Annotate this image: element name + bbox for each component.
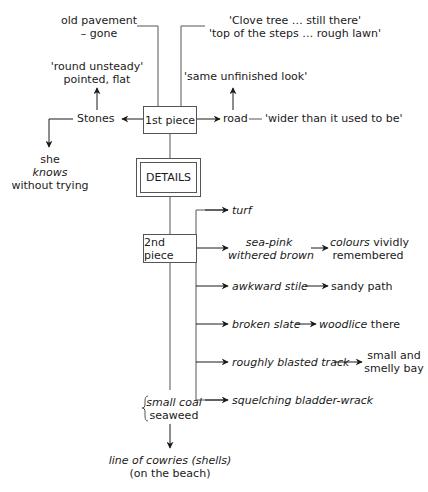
node-details: DETAILS [136,158,201,197]
old-pavement-text: old pavement [60,14,138,27]
label-clove-tree: 'Clove tree … still there' 'top of the s… [205,14,385,40]
cowries-text: line of cowries (shells) [90,454,250,467]
small-and-text: small and [363,349,425,362]
clove-tree-text: 'Clove tree … still there' [205,14,385,27]
node-second-piece: 2nd piece [143,234,197,263]
second-piece-text: 2nd piece [144,236,196,262]
vividly-text: vividly [370,236,409,249]
label-small-bay: small and smelly bay [363,349,425,375]
label-round-unsteady: 'round unsteady' pointed, flat [45,60,149,86]
knows-text: knows [10,166,90,179]
node-first-piece: 1st piece [143,106,197,134]
label-old-pavement: old pavement – gone [60,14,138,40]
label-broken-slate: broken slate [232,318,300,331]
label-sandy-path: sandy path [331,280,392,293]
label-she-knows: she knows without trying [10,153,90,192]
first-piece-text: 1st piece [145,114,195,127]
seaweed-text: seaweed [146,409,202,422]
withered-brown-text: withered brown [228,249,310,262]
label-awkward-stile: awkward stile [232,280,308,293]
smelly-bay-text: smelly bay [363,362,425,375]
on-the-beach-text: (on the beach) [90,467,250,480]
arrow-stones-she-knows [49,119,73,147]
top-of-steps-text: 'top of the steps … rough lawn' [205,27,385,40]
label-small-coal-seaweed: small coal seaweed [146,396,202,422]
sea-pink-text: sea-pink [228,236,310,249]
there-text: there [367,318,400,331]
label-stones: Stones [77,112,115,125]
branch-trunk [196,210,228,400]
she-text: she [10,153,90,166]
label-turf: turf [232,204,252,217]
label-colours-vividly: colours vividly remembered [330,236,406,262]
line-clove-tree [181,26,205,106]
label-sea-pink: sea-pink withered brown [228,236,310,262]
details-text: DETAILS [146,171,191,184]
without-trying-text: without trying [10,179,90,192]
label-same-unfinished: 'same unfinished look' [184,70,307,83]
colours-text: colours [330,236,370,249]
label-bladder-wrack: squelching bladder-wrack [232,394,373,407]
small-coal-text: small coal [146,396,202,409]
gone-text: – gone [60,27,138,40]
label-woodlice: woodlice there [319,318,400,331]
pointed-flat-text: pointed, flat [45,73,149,86]
round-unsteady-text: 'round unsteady' [45,60,149,73]
label-wider: 'wider than it used to be' [265,112,402,125]
remembered-text: remembered [330,249,406,262]
woodlice-text: woodlice [319,318,367,331]
label-roughly-blasted: roughly blasted track [232,356,349,369]
label-road: road [223,112,248,125]
label-cowries: line of cowries (shells) (on the beach) [90,454,250,480]
